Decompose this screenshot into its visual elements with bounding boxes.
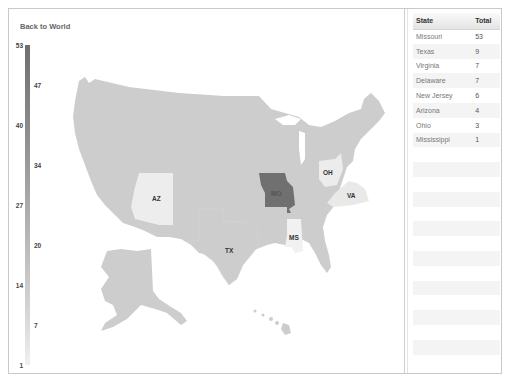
state-totals-panel: State Total Missouri53 Texas9 Virginia7 … — [407, 9, 502, 373]
empty-row — [413, 192, 500, 207]
cell-state: Delaware — [413, 73, 472, 88]
empty-row — [413, 251, 500, 266]
cell-state: Virginia — [413, 59, 472, 74]
table-row[interactable]: Missouri53 — [413, 29, 500, 44]
state-ak[interactable] — [101, 249, 187, 331]
state-label-va: VA — [347, 192, 356, 199]
cell-total: 4 — [472, 103, 500, 118]
empty-row — [413, 177, 500, 192]
cell-state: Mississippi — [413, 133, 472, 148]
empty-row — [413, 310, 500, 325]
cell-state: Texas — [413, 44, 472, 59]
app-frame: Back to World 53 47 40 34 27 20 14 7 1 — [8, 8, 502, 374]
cell-total: 7 — [472, 59, 500, 74]
column-header-total[interactable]: Total — [472, 13, 500, 29]
cell-state: New Jersey — [413, 88, 472, 103]
us-choropleth-map: AZ TX MO MS OH VA — [9, 9, 405, 373]
empty-row — [413, 355, 500, 370]
state-label-oh: OH — [323, 169, 333, 176]
cell-total: 9 — [472, 44, 500, 59]
cell-state: Arizona — [413, 103, 472, 118]
empty-row — [413, 162, 500, 177]
state-label-mo: MO — [271, 190, 281, 197]
state-label-az: AZ — [152, 195, 161, 202]
cell-total: 3 — [472, 118, 500, 133]
cell-total: 6 — [472, 88, 500, 103]
cell-state: Ohio — [413, 118, 472, 133]
table-row[interactable]: Mississippi1 — [413, 133, 500, 148]
cell-total: 1 — [472, 133, 500, 148]
empty-row — [413, 340, 500, 355]
empty-row — [413, 221, 500, 236]
table-row[interactable]: Texas9 — [413, 44, 500, 59]
empty-row — [413, 236, 500, 251]
empty-row — [413, 295, 500, 310]
empty-row — [413, 147, 500, 162]
table-row[interactable]: New Jersey6 — [413, 88, 500, 103]
cell-state: Missouri — [413, 29, 472, 44]
state-label-ms: MS — [289, 234, 299, 241]
state-hi[interactable] — [254, 310, 292, 336]
table-row[interactable]: Ohio3 — [413, 118, 500, 133]
table-row[interactable]: Virginia7 — [413, 59, 500, 74]
table-row[interactable]: Delaware7 — [413, 73, 500, 88]
column-header-state[interactable]: State — [413, 13, 472, 29]
empty-row — [413, 281, 500, 296]
state-label-tx: TX — [225, 247, 234, 254]
empty-row — [413, 207, 500, 222]
empty-row — [413, 266, 500, 281]
table-header-row: State Total — [413, 13, 500, 29]
empty-row — [413, 325, 500, 340]
state-totals-table: State Total Missouri53 Texas9 Virginia7 … — [413, 13, 500, 369]
map-pane: Back to World 53 47 40 34 27 20 14 7 1 — [9, 9, 405, 373]
table-row[interactable]: Arizona4 — [413, 103, 500, 118]
cell-total: 7 — [472, 73, 500, 88]
cell-total: 53 — [472, 29, 500, 44]
